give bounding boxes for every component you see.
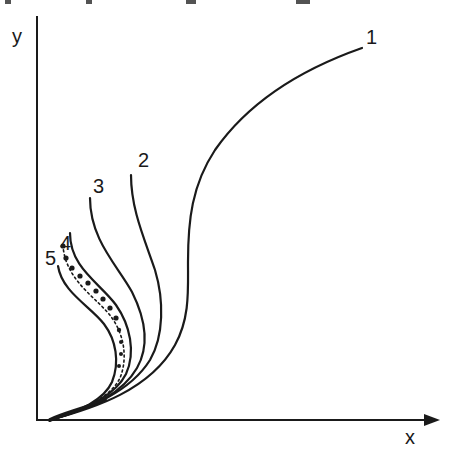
curve-5-label: 5 xyxy=(45,247,56,269)
curve-2-label: 2 xyxy=(138,149,149,171)
curve-3-label: 3 xyxy=(93,175,104,197)
curve-1-label: 1 xyxy=(366,26,377,48)
curve-4-label: 4 xyxy=(60,232,71,254)
x-axis-label: x xyxy=(405,426,415,448)
y-axis-label: y xyxy=(12,25,22,47)
curve-family-diagram: y x 1 2 3 4 5 xyxy=(0,0,455,452)
x-axis-arrowhead-icon xyxy=(424,414,440,426)
curve-2 xyxy=(50,175,161,420)
